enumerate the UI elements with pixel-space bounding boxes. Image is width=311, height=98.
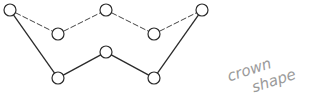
edge-G-H: [111, 55, 148, 75]
node-B: [52, 28, 64, 40]
node-D: [148, 28, 160, 40]
node-H: [148, 72, 160, 84]
crown-diagram: crown shape: [0, 0, 311, 98]
node-G: [100, 46, 112, 58]
node-E: [196, 4, 208, 16]
edge-D-E: [159, 13, 196, 32]
edge-C-D: [111, 13, 148, 32]
node-F: [52, 72, 64, 84]
edge-H-E: [157, 15, 198, 73]
node-A: [4, 4, 16, 16]
edges-group: [13, 13, 198, 75]
node-C: [100, 4, 112, 16]
edge-A-B: [15, 13, 52, 32]
edge-F-G: [63, 55, 100, 75]
edge-A-F: [13, 15, 54, 73]
handwritten-caption: crown shape: [225, 48, 298, 98]
edge-B-C: [63, 13, 100, 32]
